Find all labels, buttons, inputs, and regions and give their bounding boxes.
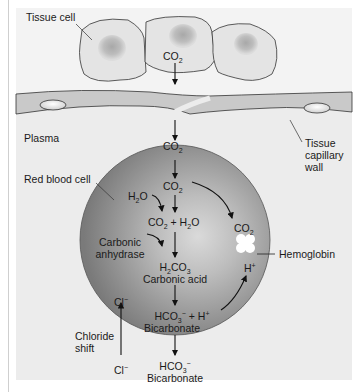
formula-h2co3: H2CO3 Carbonic acid <box>137 261 213 285</box>
formula-cl-outside: Cl− <box>114 364 128 376</box>
label-bicarbonate-inside: Bicarbonate <box>140 322 224 334</box>
formula-co2-plasma: CO2 <box>163 140 183 152</box>
label-plasma: Plasma <box>24 132 59 144</box>
formula-co2-rbc: CO2 <box>163 180 183 192</box>
tissue-cells <box>80 17 277 82</box>
label-tissue-cell: Tissue cell <box>26 11 75 23</box>
formula-co2-tissue: CO2 <box>163 50 183 62</box>
formula-co2-plus-h2o: CO2 + H2O <box>148 216 199 228</box>
formula-h-plus-hemoglobin: H+ <box>244 262 256 274</box>
formula-hco3-plus-h: HCO3− + H+ Bicarbonate <box>140 310 224 334</box>
formula-h2o: H2O <box>128 190 148 202</box>
label-carbonic-acid: Carbonic acid <box>137 273 213 285</box>
label-red-blood-cell: Red blood cell <box>24 173 91 185</box>
label-chloride-shift: Chloride shift <box>75 330 114 354</box>
label-carbonic-anhydrase: Carbonic anhydrase <box>95 236 145 260</box>
label-bicarbonate-outside: Bicarbonate <box>140 372 210 384</box>
formula-hco3-outside: HCO3− Bicarbonate <box>140 360 210 384</box>
capillary-wall <box>16 90 352 114</box>
formula-co2-hemoglobin: CO2 <box>234 222 254 234</box>
label-tissue-capillary-wall: Tissue capillary wall <box>305 137 344 173</box>
label-hemoglobin: Hemoglobin <box>279 248 335 260</box>
formula-cl-inside: Cl− <box>114 296 128 308</box>
hemoglobin-shape <box>236 234 255 253</box>
